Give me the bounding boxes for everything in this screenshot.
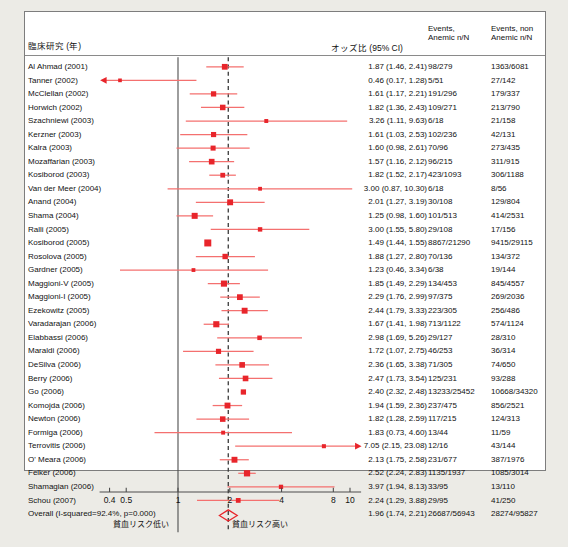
- forest-row: [183, 349, 254, 354]
- effect-size-marker: [211, 132, 216, 137]
- forest-row: [204, 321, 229, 327]
- axis-tick-label: 4: [268, 495, 296, 505]
- effect-size-marker: [211, 91, 216, 96]
- effect-size-marker: [322, 444, 326, 448]
- forest-row: [180, 132, 247, 137]
- effect-size-marker: [220, 105, 226, 111]
- forest-row: [154, 431, 292, 435]
- forest-row: [176, 213, 213, 219]
- forest-row: [190, 91, 238, 96]
- axis-label-low-risk: 貧血リスク低い: [113, 518, 169, 529]
- axis-tick-label: 1: [164, 495, 192, 505]
- effect-size-marker: [204, 239, 211, 246]
- effect-size-marker: [257, 336, 262, 341]
- forest-row: [201, 105, 244, 111]
- axis-tick-label: 0.5: [112, 495, 140, 505]
- forest-row: [168, 187, 353, 191]
- effect-size-marker: [209, 159, 215, 165]
- effect-size-marker: [222, 254, 227, 259]
- forest-row: [235, 443, 361, 450]
- forest-row: [120, 268, 268, 272]
- forest-row: [213, 403, 243, 409]
- effect-size-marker: [279, 485, 283, 489]
- forest-plot-graphic: [24, 11, 546, 547]
- effect-size-marker: [239, 362, 245, 368]
- ci-arrow-left-icon: [100, 77, 107, 84]
- effect-size-marker: [221, 431, 225, 435]
- forest-row: [220, 457, 249, 463]
- forest-row: [217, 336, 302, 341]
- forest-row: [209, 173, 236, 178]
- effect-size-marker: [258, 187, 262, 191]
- forest-row: [206, 64, 243, 70]
- effect-size-marker: [241, 389, 246, 394]
- effect-size-marker: [220, 416, 226, 422]
- effect-size-marker: [225, 403, 231, 409]
- forest-plot-page: 臨床研究 (年) オッズ比 (95% CI) Events, Anemic n/…: [0, 0, 568, 547]
- forest-row: [196, 199, 265, 205]
- forest-row: [204, 239, 211, 246]
- forest-row: [196, 416, 249, 422]
- effect-size-marker: [211, 146, 216, 151]
- effect-size-marker: [232, 457, 238, 463]
- effect-size-marker: [258, 227, 262, 231]
- effect-size-marker: [237, 294, 243, 300]
- forest-row: [238, 470, 255, 476]
- forest-row: [189, 159, 234, 165]
- forest-row: [220, 294, 260, 300]
- forest-row: [215, 362, 269, 368]
- forest-row: [241, 389, 246, 394]
- effect-size-marker: [242, 308, 248, 314]
- effect-size-marker: [221, 281, 227, 287]
- forest-row: [100, 77, 196, 84]
- effect-size-marker: [264, 119, 268, 123]
- forest-row: [196, 254, 255, 259]
- effect-size-marker: [192, 213, 198, 219]
- ci-arrow-right-icon: [355, 443, 362, 450]
- effect-size-marker: [227, 199, 233, 205]
- forest-row: [219, 376, 272, 382]
- effect-size-marker: [192, 268, 196, 272]
- effect-size-marker: [216, 349, 221, 354]
- axis-label-high-risk: 貧血リスク高い: [232, 518, 288, 529]
- axis-tick-label: 2: [216, 495, 244, 505]
- effect-size-marker: [243, 376, 249, 382]
- forest-row: [186, 119, 347, 123]
- axis-tick-label: 10: [336, 495, 364, 505]
- effect-size-marker: [244, 470, 250, 476]
- forest-row: [211, 227, 310, 231]
- effect-size-marker: [118, 79, 122, 83]
- forest-row: [176, 146, 249, 151]
- effect-size-marker: [213, 321, 219, 327]
- effect-size-marker: [220, 173, 225, 178]
- effect-size-marker: [222, 64, 228, 70]
- forest-row: [208, 281, 240, 287]
